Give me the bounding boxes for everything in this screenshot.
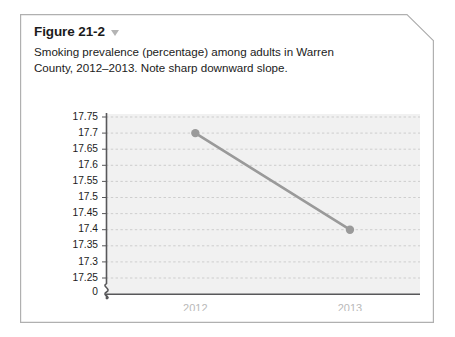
chart-svg: 17.7517.717.6517.617.5517.517.4517.417.3… bbox=[34, 86, 420, 311]
y-axis-ticks bbox=[102, 117, 106, 278]
chevron-down-icon[interactable] bbox=[111, 30, 119, 36]
data-point-marker[interactable] bbox=[191, 129, 199, 137]
figure-caption: Smoking prevalence (percentage) among ad… bbox=[34, 44, 370, 75]
y-tick-label: 17.5 bbox=[78, 191, 98, 202]
figure-card: Figure 21-2 Smoking prevalence (percenta… bbox=[20, 14, 434, 323]
line-chart: 17.7517.717.6517.617.5517.517.4517.417.3… bbox=[34, 86, 420, 311]
x-tick-label: 2013 bbox=[338, 302, 362, 311]
y-tick-label: 17.3 bbox=[78, 256, 98, 267]
y-tick-label: 17.7 bbox=[78, 127, 98, 138]
y-tick-label: 17.35 bbox=[73, 239, 99, 250]
y-axis-zero-label: 0 bbox=[92, 286, 98, 297]
y-tick-label: 17.45 bbox=[73, 207, 99, 218]
figure-title: Figure 21-2 bbox=[34, 24, 105, 39]
y-tick-label: 17.65 bbox=[73, 143, 99, 154]
y-tick-label: 17.6 bbox=[78, 159, 98, 170]
y-tick-label: 17.4 bbox=[78, 223, 98, 234]
figure-title-row: Figure 21-2 bbox=[34, 23, 414, 40]
y-axis-labels: 17.7517.717.6517.617.5517.517.4517.417.3… bbox=[73, 111, 99, 283]
y-tick-label: 17.75 bbox=[73, 111, 99, 122]
data-point-marker[interactable] bbox=[346, 226, 354, 234]
plot-background bbox=[106, 114, 420, 294]
y-tick-label: 17.25 bbox=[73, 272, 99, 283]
y-tick-label: 17.55 bbox=[73, 175, 99, 186]
figure-header: Figure 21-2 Smoking prevalence (percenta… bbox=[34, 23, 414, 75]
x-tick-label: 2012 bbox=[183, 302, 207, 311]
x-axis-labels: 20122013 bbox=[183, 302, 362, 311]
